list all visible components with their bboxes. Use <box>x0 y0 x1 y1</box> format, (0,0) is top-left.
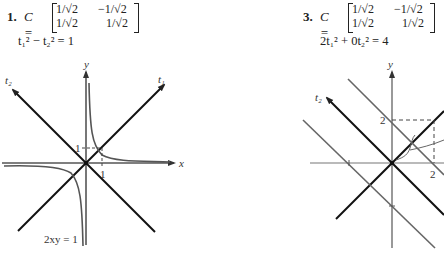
x-axis-label: x <box>178 157 184 169</box>
t1-label: t₁ <box>158 73 165 85</box>
graph-1: y x t₁ t₂ 1 1 2xy = 1 <box>2 58 184 246</box>
t1-axis <box>18 85 164 231</box>
graphs-canvas: y x t₁ t₂ 1 1 2xy = 1 y t₂ 2 2 <box>0 0 444 266</box>
t2-label: t₂ <box>5 74 12 86</box>
tick-x-2: 2 <box>430 168 436 180</box>
y-axis-label: y <box>83 58 89 70</box>
tick-y-2: 2 <box>380 114 386 126</box>
tick-y-1: 1 <box>75 142 81 154</box>
t2-label: t₂ <box>315 91 322 103</box>
hyperbola-branch-1 <box>89 83 170 162</box>
curve-label: 2xy = 1 <box>44 233 78 245</box>
graph-3: y t₂ 2 2 <box>303 58 444 248</box>
origin-dot <box>390 161 394 165</box>
solution-line-upper <box>348 79 444 175</box>
origin-dot <box>84 161 88 165</box>
y-axis-label: y <box>387 58 393 70</box>
tick-x-1: 1 <box>100 168 106 180</box>
t1-axis <box>336 111 444 219</box>
